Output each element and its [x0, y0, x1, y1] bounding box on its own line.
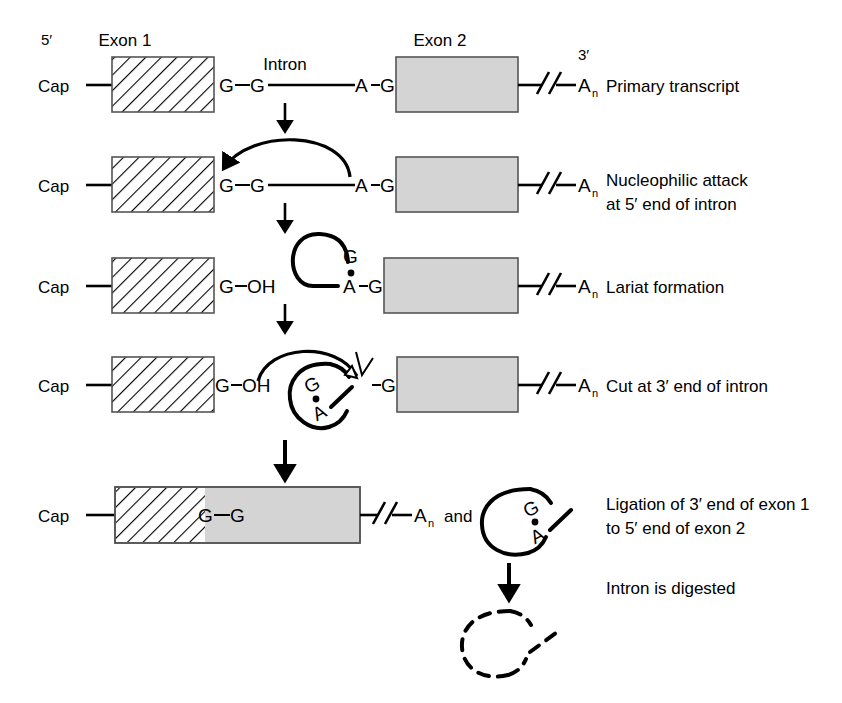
junction-g-right: G: [230, 505, 245, 526]
lariat-g-row4: G: [301, 372, 324, 397]
digested-lariat-tail: [530, 633, 556, 652]
exon1-box-row1: [112, 57, 214, 112]
branch-a-row4: A: [309, 400, 330, 425]
lariat-loop-row3: [293, 234, 348, 286]
digested-lariat-upper: [510, 611, 531, 625]
exon1-box-row2: [112, 157, 214, 212]
poly-a-row5: A: [414, 505, 427, 526]
exon2-box-row2: [396, 157, 518, 212]
lariat-tail-row4: [331, 387, 352, 407]
exon2-title: Exon 2: [414, 31, 467, 50]
branch-a-row1: A: [355, 75, 368, 96]
five-prime-label: 5′: [41, 31, 52, 48]
cut-attack-arrowhead-row4: [345, 366, 357, 378]
exon2-start-g-row4: G: [381, 375, 396, 396]
step-intron-digested: Intron is digested: [462, 579, 736, 677]
step-label-nucleophilic-attack-2: at 5′ end of intron: [606, 195, 737, 214]
exon2-box-row4: [397, 357, 518, 412]
cap-label-row3: Cap: [38, 278, 69, 297]
step-label-primary-transcript: Primary transcript: [606, 77, 739, 96]
spliced-exon1-segment: [116, 488, 205, 542]
poly-a-row1: A: [578, 75, 591, 96]
released-lariat-tail: [550, 510, 571, 530]
break-slash2-row4: [549, 372, 561, 394]
digested-lariat-lower: [508, 659, 526, 675]
step-primary-transcript: 5′ Cap Exon 1 Exon 2 Intron G G A G 3′ A…: [38, 31, 739, 131]
exon1-end-g-row3: G: [219, 276, 234, 297]
exon2-box-row3: [384, 258, 518, 313]
intron-title: Intron: [263, 55, 306, 74]
intron-end-g-row1: G: [380, 75, 395, 96]
poly-a-sub-row3: n: [592, 288, 598, 300]
exon1-end-g-row4: G: [215, 375, 230, 396]
exon1-end-g-row2: G: [219, 175, 234, 196]
step-label-intron-digested: Intron is digested: [606, 579, 735, 598]
poly-a-sub-row4: n: [592, 387, 598, 399]
cleavage-mark-row4: [356, 352, 373, 375]
break-slash1-row2: [537, 172, 549, 194]
junction-g-left: G: [198, 505, 213, 526]
poly-a-sub-row1: n: [592, 87, 598, 99]
step-cut-at-3-prime: Cap G OH G A G A n Cut at 3′ end of intr…: [38, 351, 768, 478]
step-label-lariat-formation: Lariat formation: [606, 278, 724, 297]
step-lariat-formation: Cap G OH G A G A n Lariat formation: [38, 234, 724, 332]
cap-label-row2: Cap: [38, 177, 69, 196]
cap-label-row1: Cap: [38, 77, 69, 96]
step-label-ligation-2: to 5′ end of exon 2: [606, 519, 745, 538]
nucleophilic-attack-arrow: [224, 140, 350, 177]
step-label-nucleophilic-attack-1: Nucleophilic attack: [606, 171, 748, 190]
released-lariat-loop: [482, 489, 530, 555]
hydroxyl-row4: OH: [242, 375, 271, 396]
digested-lariat-loop: [462, 611, 510, 677]
break-slash1-row4: [537, 372, 549, 394]
branch-a-row2: A: [355, 175, 368, 196]
break-slash2-row5: [385, 502, 397, 524]
poly-a-row3: A: [578, 276, 591, 297]
poly-a-row2: A: [578, 175, 591, 196]
step-label-ligation-1: Ligation of 3′ end of exon 1: [606, 495, 810, 514]
intron-start-g-row1: G: [250, 75, 265, 96]
poly-a-row4: A: [578, 375, 591, 396]
break-slash1-row1: [537, 72, 549, 94]
exon1-end-g-row1: G: [219, 75, 234, 96]
step-nucleophilic-attack: Cap G G A G A n Nucleophilic attack at 5…: [38, 140, 748, 231]
intron-end-g-row2: G: [380, 175, 395, 196]
break-slash2-row3: [549, 273, 561, 295]
exon1-title: Exon 1: [99, 31, 152, 50]
diagram-canvas: 5′ Cap Exon 1 Exon 2 Intron G G A G 3′ A…: [0, 0, 842, 703]
lariat-loop-row4-lower: [329, 411, 347, 427]
exon1-box-row3: [112, 258, 214, 313]
break-slash1-row3: [537, 273, 549, 295]
lariat-g-row3: G: [343, 246, 358, 267]
break-slash1-row5: [373, 502, 385, 524]
break-slash2-row2: [549, 172, 561, 194]
break-slash2-row1: [549, 72, 561, 94]
cap-label-row5: Cap: [38, 507, 69, 526]
released-lariat-g: G: [520, 496, 543, 521]
cap-label-row4: Cap: [38, 377, 69, 396]
splicing-diagram: 5′ Cap Exon 1 Exon 2 Intron G G A G 3′ A…: [0, 0, 842, 703]
poly-a-sub-row2: n: [592, 187, 598, 199]
step-label-cut-at-3-prime: Cut at 3′ end of intron: [606, 377, 768, 396]
exon1-box-row4: [112, 357, 214, 412]
hydroxyl-row3: OH: [247, 276, 276, 297]
intron-start-g-row2: G: [250, 175, 265, 196]
branch-a-row3: A: [343, 276, 356, 297]
conjunction-and: and: [444, 507, 472, 526]
three-prime-label: 3′: [578, 46, 589, 63]
exon2-box-row1: [396, 57, 518, 112]
exon2-start-g-row3: G: [368, 276, 383, 297]
poly-a-sub-row5: n: [428, 517, 434, 529]
